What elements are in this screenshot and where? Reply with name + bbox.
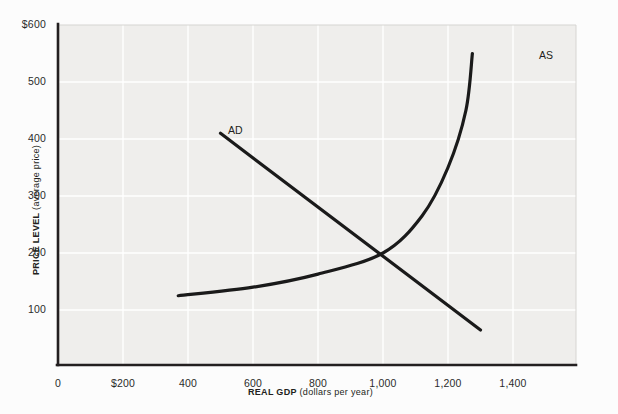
chart-figure: 100200300400500$6000$2004006008001,0001,… — [0, 0, 618, 414]
curve-label-ad: AD — [228, 124, 243, 136]
x-tick-label-0: 0 — [28, 377, 88, 389]
x-tick-label-1200: 1,200 — [418, 377, 478, 389]
curve-label-as: AS — [539, 49, 553, 61]
y-axis-title: PRICE LEVEL (average price) — [31, 145, 41, 275]
x-axis-title: REAL GDP (dollars per year) — [248, 387, 373, 397]
y-tick-label-500: 500 — [0, 75, 46, 87]
x-tick-label-200: $200 — [93, 377, 153, 389]
y-tick-label-100: 100 — [0, 303, 46, 315]
plot-background — [58, 25, 576, 365]
chart-canvas — [0, 0, 618, 414]
x-tick-label-400: 400 — [158, 377, 218, 389]
y-tick-label-600: $600 — [0, 18, 46, 30]
y-tick-label-400: 400 — [0, 132, 46, 144]
x-tick-label-1400: 1,400 — [483, 377, 543, 389]
